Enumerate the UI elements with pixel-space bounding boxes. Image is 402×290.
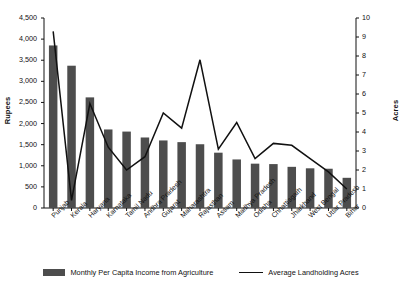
y-tick-label-left: 1,500 (11, 141, 37, 149)
y-tick-label-right: 2 (362, 166, 382, 174)
y-tick-label-left: 2,000 (11, 120, 37, 128)
y-tick-label-right: 8 (362, 52, 382, 60)
y-tick-label-right: 4 (362, 128, 382, 136)
y-tick-label-left: 4,000 (11, 35, 37, 43)
legend-bar-label: Monthly Per Capita Income from Agricultu… (70, 268, 213, 277)
y-tick-label-right: 0 (362, 204, 382, 212)
chart-plot-area (0, 0, 402, 290)
y-tick-label-right: 7 (362, 71, 382, 79)
legend-line-label: Average Landholding Acres (268, 268, 358, 277)
chart-container: Rupees Acres 05001,0001,5002,0002,5003,0… (0, 0, 402, 290)
legend-item-bar: Monthly Per Capita Income from Agricultu… (43, 268, 213, 277)
y-tick-label-right: 6 (362, 90, 382, 98)
y-tick-label-right: 5 (362, 109, 382, 117)
y-tick-label-left: 1,000 (11, 162, 37, 170)
y-tick-label-left: 3,500 (11, 56, 37, 64)
y-tick-label-right: 10 (362, 14, 382, 22)
y-tick-label-left: 4,500 (11, 14, 37, 22)
y-tick-label-right: 9 (362, 33, 382, 41)
legend-line-swatch-icon (239, 272, 263, 273)
y-tick-label-right: 3 (362, 147, 382, 155)
legend-item-line: Average Landholding Acres (239, 268, 358, 277)
y-tick-label-left: 0 (11, 204, 37, 212)
chart-legend: Monthly Per Capita Income from Agricultu… (0, 268, 402, 277)
y-tick-label-right: 1 (362, 185, 382, 193)
y-tick-label-left: 3,000 (11, 77, 37, 85)
y-tick-label-left: 2,500 (11, 98, 37, 106)
y-tick-label-left: 500 (11, 183, 37, 191)
legend-bar-swatch-icon (43, 269, 65, 276)
